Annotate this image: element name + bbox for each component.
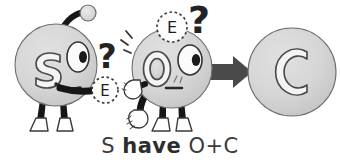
character-o-eye	[178, 45, 202, 75]
electron-label-near-s: E	[92, 77, 118, 103]
character-s-letter	[36, 53, 61, 88]
character-s-eye	[67, 42, 89, 72]
character-s	[15, 5, 97, 131]
question-mark-right-glyph: ?	[188, 0, 210, 42]
electron-letter-e-right: E	[167, 18, 177, 37]
chemistry-cartoon-illustration: E ? E ?	[0, 0, 340, 168]
result-circle	[248, 28, 336, 116]
antenna-tip-ball-icon	[80, 5, 96, 21]
illustration-scene: E ? E ? S have O+C	[0, 0, 340, 168]
character-o-letter	[144, 52, 171, 87]
electron-label-above-o: E	[157, 12, 187, 42]
question-mark-left-glyph: ?	[97, 37, 116, 76]
electron-letter-e-left: E	[100, 82, 109, 100]
motion-lines-icon	[121, 31, 132, 53]
character-o	[121, 28, 212, 131]
result-group	[210, 28, 336, 116]
question-mark-left: ?	[97, 37, 116, 76]
question-mark-right: ?	[188, 0, 210, 42]
result-arrow	[210, 56, 252, 88]
